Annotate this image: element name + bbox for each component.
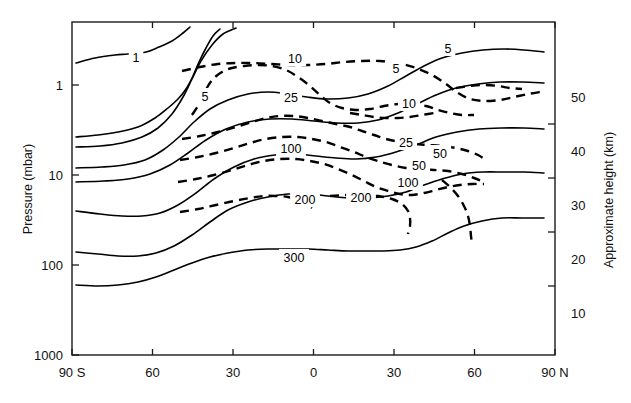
- contour-label: 1: [133, 51, 140, 65]
- solid-contour-line: [76, 29, 220, 137]
- contour-label: 25: [284, 91, 298, 105]
- solid-contour-line: [76, 218, 544, 286]
- y2-tick-label: 20: [571, 252, 585, 267]
- contour-label: 5: [393, 62, 400, 76]
- dashed-contour-line: [178, 159, 484, 195]
- x-tick-label: 60: [467, 365, 481, 380]
- x-tick-label: 0: [310, 365, 317, 380]
- x-axis-tick-labels: 90 S60300306090 N: [59, 365, 569, 380]
- plot-frame: [72, 22, 555, 355]
- y2-tick-label: 40: [571, 144, 585, 159]
- contour-label: 300: [284, 251, 305, 265]
- y-tick-label: 100: [41, 258, 63, 273]
- chart-canvas: 90 S60300306090 N 1101001000 5040302010 …: [0, 0, 631, 403]
- contour-label: 5: [445, 42, 452, 56]
- contour-label: 100: [281, 142, 302, 156]
- solid-contour-line: [76, 28, 236, 147]
- x-axis-ticks: [72, 22, 555, 355]
- y2-tick-label: 50: [571, 90, 585, 105]
- y2-tick-label: 10: [571, 306, 585, 321]
- dashed-contour-line: [192, 65, 474, 115]
- x-tick-label: 60: [145, 365, 159, 380]
- x-tick-label: 30: [226, 365, 240, 380]
- contour-label: 100: [398, 176, 419, 190]
- contour-label: 5: [202, 90, 209, 104]
- contour-label: 50: [433, 147, 447, 161]
- y-axis-ticks: [72, 85, 79, 355]
- contour-label: 200: [295, 193, 316, 207]
- contour-label: 25: [399, 136, 413, 150]
- y-tick-label: 1: [56, 78, 63, 93]
- y2-tick-label: 30: [571, 198, 585, 213]
- x-tick-label: 30: [387, 365, 401, 380]
- contour-chart-figure: 90 S60300306090 N 1101001000 5040302010 …: [0, 0, 631, 403]
- dashed-contour-group: [178, 61, 540, 244]
- y-tick-label: 1000: [34, 348, 63, 363]
- solid-contour-line: [76, 49, 544, 168]
- y-axis-title: Pressure (mbar): [21, 144, 35, 234]
- y2-axis-tick-labels: 5040302010: [571, 90, 585, 321]
- x-tick-label: 90 S: [59, 365, 86, 380]
- x-tick-label: 90 N: [541, 365, 568, 380]
- y2-axis-title: Approximate height (km): [602, 132, 616, 268]
- y2-axis-minor-ticks: [548, 124, 555, 286]
- y-axis-tick-labels: 1101001000: [34, 78, 63, 363]
- y-tick-label: 10: [49, 168, 63, 183]
- contour-label: 10: [402, 97, 416, 111]
- contour-label: 50: [412, 159, 426, 173]
- contour-label: 200: [351, 191, 372, 205]
- contour-label: 10: [288, 52, 302, 66]
